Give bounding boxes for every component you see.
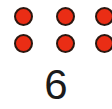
dot-row bbox=[0, 7, 112, 29]
dot-grid bbox=[0, 0, 112, 62]
red-dot-icon bbox=[14, 34, 33, 53]
counting-flashcard: 6 bbox=[0, 0, 112, 109]
numeral-label: 6 bbox=[0, 62, 112, 109]
dot-row bbox=[0, 34, 112, 56]
red-dot-icon bbox=[14, 7, 33, 26]
red-dot-icon bbox=[56, 7, 75, 26]
red-dot-icon bbox=[95, 34, 112, 53]
numeral-value: 6 bbox=[44, 64, 67, 106]
red-dot-icon bbox=[95, 7, 112, 26]
red-dot-icon bbox=[56, 34, 75, 53]
